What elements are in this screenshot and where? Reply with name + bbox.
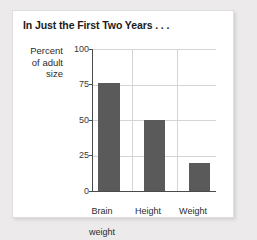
bar-height <box>144 120 165 191</box>
x-tick-label-brain-weight-line-2: weight <box>77 227 127 238</box>
x-tick-label-height: Height <box>123 195 173 227</box>
y-tick-mark-25 <box>89 155 92 156</box>
bar-brain-weight <box>98 83 120 191</box>
x-tick-label-brain-weight: Brain weight <box>77 195 127 240</box>
gridline-100 <box>93 49 216 50</box>
x-tick-label-weight-line-1: Weight <box>168 206 218 217</box>
bar-weight <box>189 163 210 191</box>
y-tick-label-75: 75 <box>65 79 89 89</box>
y-tick-label-100: 100 <box>65 44 89 54</box>
y-tick-mark-0 <box>89 191 92 192</box>
y-tick-mark-50 <box>89 120 92 121</box>
y-tick-mark-100 <box>89 49 92 50</box>
x-tick-label-brain-weight-line-1: Brain <box>77 206 127 217</box>
y-axis-title-line-3: size <box>17 68 63 80</box>
chart-card: In Just the First Two Years . . . Percen… <box>12 10 234 218</box>
x-tick-label-weight: Weight <box>168 195 218 227</box>
axis-baseline <box>93 191 216 192</box>
plot-area <box>93 49 216 191</box>
y-tick-label-50: 50 <box>65 115 89 125</box>
y-axis-title-line-2: of adult <box>17 57 63 69</box>
category-separator-1 <box>132 49 133 191</box>
chart-title: In Just the First Two Years . . . <box>23 19 169 31</box>
y-tick-label-25: 25 <box>65 150 89 160</box>
y-axis-title-line-1: Percent <box>17 45 63 57</box>
y-axis-title: Percent of adult size <box>17 45 63 80</box>
y-tick-mark-75 <box>89 84 92 85</box>
category-separator-2 <box>177 49 178 191</box>
x-tick-label-height-line-1: Height <box>123 206 173 217</box>
